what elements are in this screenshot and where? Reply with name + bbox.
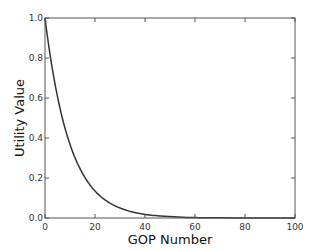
y-tick-label: 0.2 [29,173,43,183]
y-axis-ticks: 0.00.20.40.60.81.0 [29,13,295,223]
y-tick-label: 0.4 [29,133,44,143]
x-tick-label: 0 [42,222,48,232]
y-tick-label: 1.0 [29,13,44,23]
y-axis-label: Utility Value [12,79,27,157]
y-tick-label: 0.6 [29,93,44,103]
y-tick-label: 0.0 [29,213,44,223]
y-tick-label: 0.8 [29,53,44,63]
x-tick-label: 100 [286,222,303,232]
x-tick-label: 80 [239,222,251,232]
x-tick-label: 20 [89,222,101,232]
x-axis-ticks: 020406080100 [42,18,304,232]
utility-chart: 020406080100 0.00.20.40.60.81.0 GOP Numb… [0,0,318,251]
x-axis-label: GOP Number [128,232,213,247]
plot-frame [45,18,295,218]
utility-curve [45,18,295,218]
x-tick-label: 40 [139,222,151,232]
x-tick-label: 60 [189,222,201,232]
